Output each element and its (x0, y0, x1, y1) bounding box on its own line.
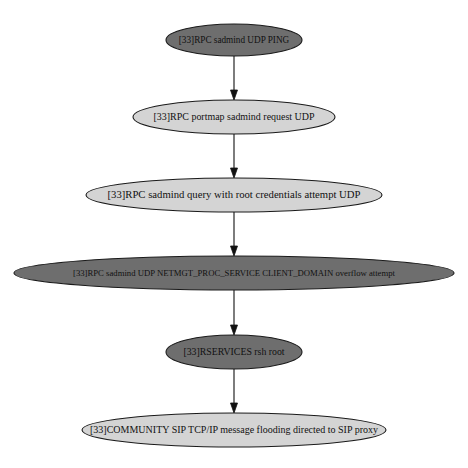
attack-graph-diagram: [33]RPC sadmind UDP PING[33]RPC portmap … (0, 0, 468, 468)
node-label: [33]RPC sadmind query with root credenti… (108, 190, 361, 200)
node-label: [33]RPC portmap sadmind request UDP (154, 112, 315, 122)
graph-node-n3[interactable]: [33]RPC sadmind query with root credenti… (86, 178, 382, 212)
node-label: [33]RPC sadmind UDP NETMGT_PROC_SERVICE … (73, 268, 395, 278)
edge-n1-to-n2 (231, 56, 238, 100)
graph-node-n2[interactable]: [33]RPC portmap sadmind request UDP (133, 100, 335, 134)
graph-node-n4[interactable]: [33]RPC sadmind UDP NETMGT_PROC_SERVICE … (14, 256, 454, 290)
node-label: [33]COMMUNITY SIP TCP/IP message floodin… (90, 425, 378, 435)
arrowhead-icon (231, 168, 238, 178)
graph-node-n1[interactable]: [33]RPC sadmind UDP PING (166, 24, 302, 56)
edge-n5-to-n6 (231, 369, 238, 413)
node-label: [33]RPC sadmind UDP PING (179, 35, 290, 45)
edge-n4-to-n5 (231, 290, 238, 335)
arrowhead-icon (231, 403, 238, 413)
graph-node-n5[interactable]: [33]RSERVICES rsh root (166, 335, 302, 369)
node-label: [33]RSERVICES rsh root (183, 347, 285, 357)
arrowhead-icon (231, 90, 238, 100)
arrowhead-icon (231, 246, 238, 256)
arrowhead-icon (231, 325, 238, 335)
edge-n3-to-n4 (231, 212, 238, 256)
edge-n2-to-n3 (231, 134, 238, 178)
graph-node-n6[interactable]: [33]COMMUNITY SIP TCP/IP message floodin… (82, 413, 386, 447)
